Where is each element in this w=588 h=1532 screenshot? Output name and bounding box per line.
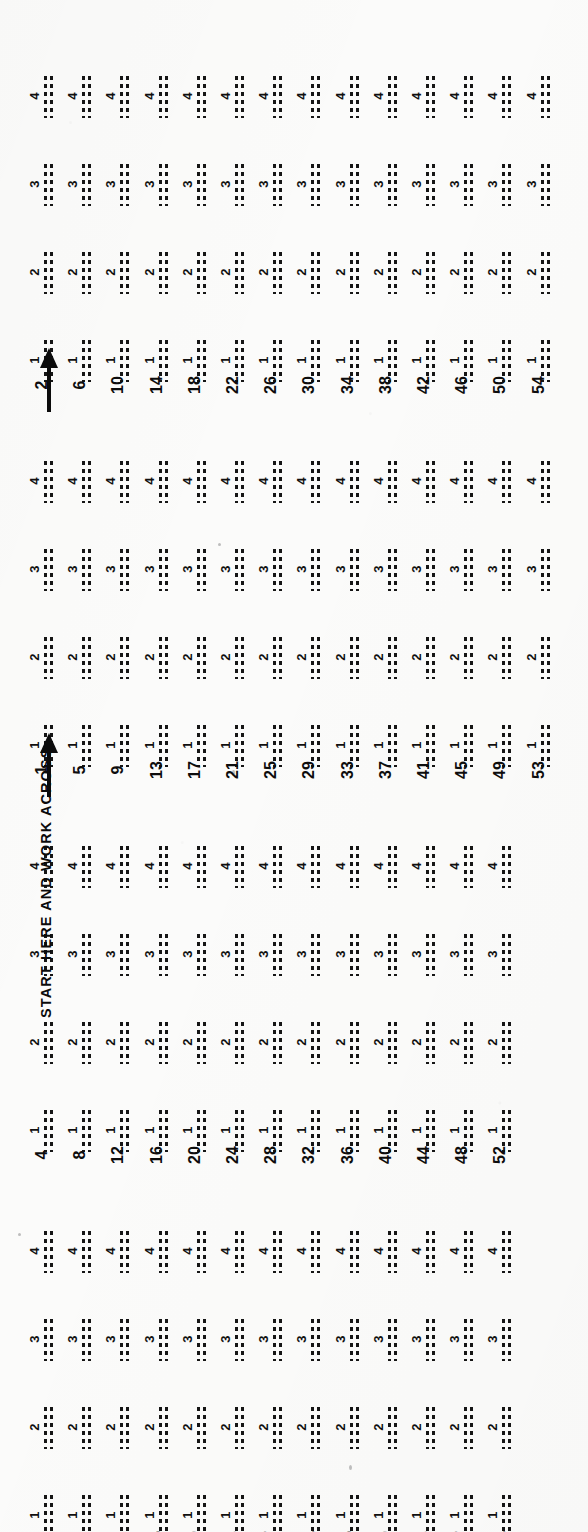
answer-blank-dashes[interactable] — [348, 164, 362, 206]
answer-blank-dashes[interactable] — [424, 846, 438, 888]
answer-option-q10-2[interactable]: 2 — [104, 250, 138, 296]
answer-option-q45-3[interactable]: 3 — [448, 547, 482, 593]
answer-blank-dashes[interactable] — [539, 461, 553, 503]
answer-blank-dashes[interactable] — [195, 1407, 209, 1449]
answer-option-q33-2[interactable]: 2 — [334, 635, 368, 681]
answer-blank-dashes[interactable] — [80, 934, 94, 976]
answer-option-q26-4[interactable]: 4 — [257, 74, 291, 120]
answer-option-q11-3[interactable]: 3 — [104, 1317, 138, 1363]
answer-blank-dashes[interactable] — [80, 252, 94, 294]
answer-option-q9-3[interactable]: 3 — [104, 547, 138, 593]
answer-blank-dashes[interactable] — [42, 1231, 56, 1273]
answer-blank-dashes[interactable] — [424, 461, 438, 503]
answer-blank-dashes[interactable] — [195, 846, 209, 888]
answer-blank-dashes[interactable] — [80, 637, 94, 679]
answer-blank-dashes[interactable] — [80, 1022, 94, 1064]
answer-blank-dashes[interactable] — [386, 461, 400, 503]
answer-option-q33-3[interactable]: 3 — [334, 547, 368, 593]
answer-blank-dashes[interactable] — [118, 846, 132, 888]
answer-option-q5-4[interactable]: 4 — [66, 459, 100, 505]
answer-option-q41-3[interactable]: 3 — [410, 547, 444, 593]
answer-option-q10-4[interactable]: 4 — [104, 74, 138, 120]
answer-option-q41-4[interactable]: 4 — [410, 459, 444, 505]
answer-blank-dashes[interactable] — [539, 252, 553, 294]
answer-blank-dashes[interactable] — [462, 637, 476, 679]
answer-option-q27-2[interactable]: 2 — [257, 1405, 291, 1451]
answer-blank-dashes[interactable] — [195, 934, 209, 976]
answer-blank-dashes[interactable] — [271, 846, 285, 888]
answer-option-q40-4[interactable]: 4 — [372, 844, 406, 890]
answer-option-q27-3[interactable]: 3 — [257, 1317, 291, 1363]
answer-blank-dashes[interactable] — [309, 637, 323, 679]
answer-blank-dashes[interactable] — [42, 461, 56, 503]
answer-option-q48-4[interactable]: 4 — [448, 844, 482, 890]
answer-option-q14-2[interactable]: 2 — [143, 250, 177, 296]
answer-option-q49-2[interactable]: 2 — [486, 635, 520, 681]
answer-option-q42-3[interactable]: 3 — [410, 162, 444, 208]
answer-option-q53-2[interactable]: 2 — [525, 635, 559, 681]
answer-blank-dashes[interactable] — [157, 549, 171, 591]
answer-blank-dashes[interactable] — [42, 637, 56, 679]
answer-option-q13-4[interactable]: 4 — [143, 459, 177, 505]
answer-option-q33-4[interactable]: 4 — [334, 459, 368, 505]
answer-option-q37-2[interactable]: 2 — [372, 635, 406, 681]
answer-blank-dashes[interactable] — [118, 637, 132, 679]
answer-blank-dashes[interactable] — [424, 1319, 438, 1361]
answer-option-q28-4[interactable]: 4 — [257, 844, 291, 890]
answer-blank-dashes[interactable] — [157, 637, 171, 679]
answer-blank-dashes[interactable] — [309, 461, 323, 503]
answer-option-q17-3[interactable]: 3 — [181, 547, 215, 593]
answer-option-q26-3[interactable]: 3 — [257, 162, 291, 208]
answer-option-q45-4[interactable]: 4 — [448, 459, 482, 505]
answer-blank-dashes[interactable] — [271, 252, 285, 294]
answer-option-q42-4[interactable]: 4 — [410, 74, 444, 120]
answer-blank-dashes[interactable] — [386, 76, 400, 118]
answer-option-q43-3[interactable]: 3 — [410, 1317, 444, 1363]
answer-blank-dashes[interactable] — [118, 549, 132, 591]
answer-blank-dashes[interactable] — [424, 1407, 438, 1449]
answer-blank-dashes[interactable] — [271, 1022, 285, 1064]
answer-option-q40-3[interactable]: 3 — [372, 932, 406, 978]
answer-blank-dashes[interactable] — [386, 1231, 400, 1273]
answer-blank-dashes[interactable] — [195, 1022, 209, 1064]
answer-blank-dashes[interactable] — [157, 252, 171, 294]
answer-blank-dashes[interactable] — [233, 1319, 247, 1361]
answer-option-q49-4[interactable]: 4 — [486, 459, 520, 505]
answer-blank-dashes[interactable] — [309, 164, 323, 206]
answer-blank-dashes[interactable] — [195, 1231, 209, 1273]
answer-option-q14-3[interactable]: 3 — [143, 162, 177, 208]
answer-option-q46-3[interactable]: 3 — [448, 162, 482, 208]
answer-blank-dashes[interactable] — [42, 1319, 56, 1361]
answer-option-q39-3[interactable]: 3 — [372, 1317, 406, 1363]
answer-blank-dashes[interactable] — [500, 252, 514, 294]
answer-blank-dashes[interactable] — [233, 164, 247, 206]
answer-option-q11-2[interactable]: 2 — [104, 1405, 138, 1451]
answer-blank-dashes[interactable] — [462, 846, 476, 888]
answer-blank-dashes[interactable] — [500, 1319, 514, 1361]
answer-option-q24-4[interactable]: 4 — [219, 844, 253, 890]
answer-blank-dashes[interactable] — [386, 846, 400, 888]
answer-option-q52-3[interactable]: 3 — [486, 932, 520, 978]
answer-option-q48-2[interactable]: 2 — [448, 1020, 482, 1066]
answer-option-q36-3[interactable]: 3 — [334, 932, 368, 978]
answer-blank-dashes[interactable] — [118, 1319, 132, 1361]
answer-option-q13-3[interactable]: 3 — [143, 547, 177, 593]
answer-option-q12-4[interactable]: 4 — [104, 844, 138, 890]
answer-blank-dashes[interactable] — [233, 1022, 247, 1064]
answer-blank-dashes[interactable] — [539, 549, 553, 591]
answer-blank-dashes[interactable] — [118, 1022, 132, 1064]
answer-blank-dashes[interactable] — [348, 1022, 362, 1064]
answer-blank-dashes[interactable] — [386, 637, 400, 679]
answer-option-q13-2[interactable]: 2 — [143, 635, 177, 681]
answer-option-q38-3[interactable]: 3 — [372, 162, 406, 208]
answer-blank-dashes[interactable] — [424, 1231, 438, 1273]
answer-blank-dashes[interactable] — [500, 549, 514, 591]
answer-option-q39-4[interactable]: 4 — [372, 1229, 406, 1275]
answer-blank-dashes[interactable] — [195, 76, 209, 118]
answer-blank-dashes[interactable] — [539, 637, 553, 679]
answer-option-q15-4[interactable]: 4 — [143, 1229, 177, 1275]
answer-option-q6-3[interactable]: 3 — [66, 162, 100, 208]
answer-option-q53-4[interactable]: 4 — [525, 459, 559, 505]
answer-option-q32-4[interactable]: 4 — [295, 844, 329, 890]
answer-blank-dashes[interactable] — [500, 164, 514, 206]
